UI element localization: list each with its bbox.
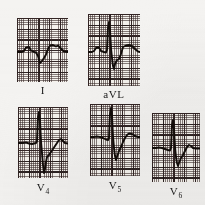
ecg-panel-lead-avl: [88, 14, 140, 86]
ecg-trace-lead-i: [17, 18, 68, 82]
ecg-waveform-path: [90, 108, 140, 160]
ecg-figure: I aVL V4 V5 V6: [0, 0, 205, 205]
lead-label-i: I: [33, 85, 53, 99]
ecg-panel-lead-i: [17, 18, 68, 82]
lead-label-avl: aVL: [95, 89, 133, 103]
ecg-trace-lead-avl: [88, 14, 140, 86]
lead-label-v6: V6: [164, 186, 188, 200]
ecg-trace-lead-v6: [152, 113, 200, 182]
ecg-trace-lead-v4: [18, 107, 68, 178]
ecg-panel-lead-v6: [152, 113, 200, 182]
ecg-waveform-path: [152, 120, 200, 166]
ecg-panel-lead-v4: [18, 107, 68, 178]
lead-label-v5: V5: [103, 180, 127, 194]
ecg-waveform-path: [88, 22, 140, 69]
lead-label-subscript: 4: [45, 187, 49, 196]
ecg-panel-lead-v5: [90, 104, 140, 176]
lead-label-text: I: [41, 84, 45, 96]
lead-label-text: aVL: [103, 88, 124, 100]
ecg-waveform-path: [18, 112, 68, 173]
ecg-waveform-path: [17, 45, 68, 63]
lead-label-v4: V4: [31, 182, 55, 196]
lead-label-subscript: 6: [178, 191, 182, 200]
ecg-trace-lead-v5: [90, 104, 140, 176]
lead-label-subscript: 5: [117, 185, 121, 194]
